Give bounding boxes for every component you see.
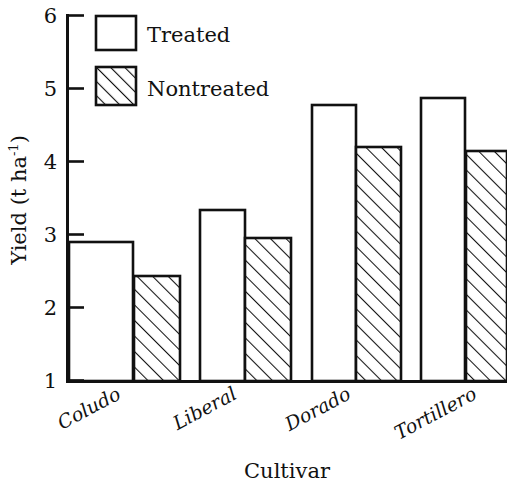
y-axis-title: Yield (t ha-1) (6, 135, 31, 266)
legend-swatch-treated (96, 16, 136, 50)
x-category-label-coludo: Coludo (54, 382, 124, 433)
svg-text:Tortillero: Tortillero (391, 382, 480, 443)
y-tick-label-5: 5 (44, 77, 57, 101)
bar-nontreated-coludo (134, 276, 180, 381)
svg-text:Dorado: Dorado (280, 382, 354, 435)
bar-nontreated-dorado (356, 147, 401, 381)
legend-swatch-nontreated (96, 67, 136, 105)
y-tick-label-4: 4 (44, 150, 57, 174)
y-tick-label-1: 1 (44, 369, 57, 393)
y-tick-label-2: 2 (44, 296, 57, 320)
y-axis-title-base: Yield (t ha (7, 156, 31, 266)
svg-text:Yield (t ha-1): Yield (t ha-1) (6, 135, 31, 266)
legend-label-treated: Treated (147, 23, 230, 47)
bar-treated-coludo (69, 242, 133, 381)
svg-text:Liberal: Liberal (168, 382, 240, 434)
svg-text:Coludo: Coludo (54, 382, 124, 433)
bar-nontreated-tortillero (466, 151, 507, 381)
bar-treated-liberal (200, 210, 245, 381)
bar-treated-tortillero (421, 98, 465, 381)
bar-chart-figure: 6 5 4 3 2 1 Yield (t ha-1) Coludo Libera… (0, 0, 507, 486)
y-axis-title-superscript: -1 (6, 143, 21, 156)
legend-label-nontreated: Nontreated (147, 77, 269, 101)
y-axis-title-tail: ) (7, 135, 31, 143)
x-category-label-liberal: Liberal (168, 382, 240, 434)
bar-treated-dorado (312, 105, 356, 381)
x-axis-title: Cultivar (244, 459, 331, 483)
bar-nontreated-liberal (245, 238, 291, 381)
y-tick-label-6: 6 (44, 4, 57, 28)
y-tick-label-3: 3 (44, 223, 57, 247)
chart-canvas: 6 5 4 3 2 1 Yield (t ha-1) Coludo Libera… (0, 0, 507, 486)
x-category-label-tortillero: Tortillero (391, 382, 480, 443)
x-category-label-dorado: Dorado (280, 382, 354, 435)
